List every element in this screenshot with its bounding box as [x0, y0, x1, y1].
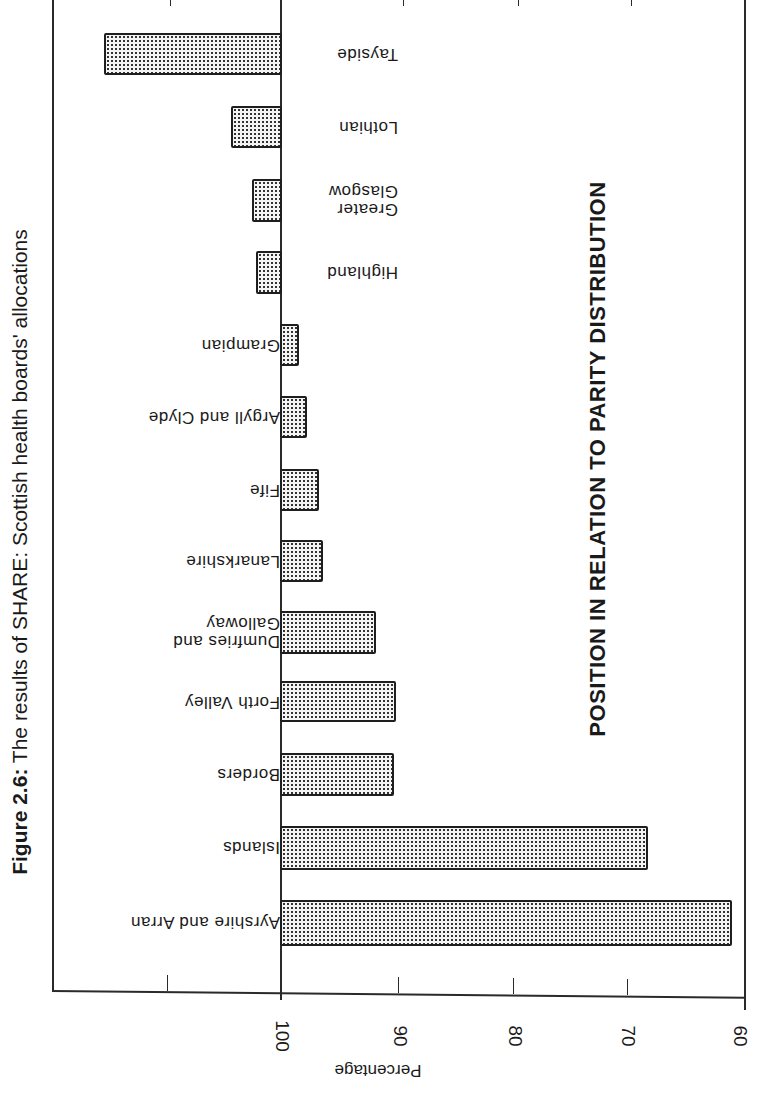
label-islands: Islands [180, 838, 280, 856]
tick-bottom-110 [167, 975, 168, 991]
bar-ayrshire-and-arran [280, 900, 732, 946]
tick-label-80: 80 [504, 1016, 526, 1056]
tick-top-70 [631, 0, 632, 6]
tick-top-90 [403, 0, 404, 6]
bar-fife [280, 469, 319, 511]
figure-caption-text: The results of SHARE: Scottish health bo… [8, 229, 31, 763]
bar-lanarkshire [280, 540, 323, 582]
tick-bottom-70 [627, 979, 628, 995]
label-ayrshire-and-arran: Ayrshire and Arran [90, 913, 280, 931]
label-lanarkshire: Lanarkshire [150, 552, 280, 570]
bar-dumfries-and-galloway [280, 611, 376, 654]
label-dumfries-and-galloway: Dumfries and Galloway [160, 614, 280, 650]
figure-caption: Figure 2.6: The results of SHARE: Scotti… [8, 1, 32, 1102]
bar-lothian [231, 106, 282, 148]
bar-tayside [104, 33, 282, 75]
bar-greater-glasgow [252, 179, 282, 222]
bar-islands [280, 826, 648, 870]
parity-annotation: POSITION IN RELATION TO PARITY DISTRIBUT… [585, 109, 611, 809]
bar-highland [256, 251, 282, 294]
label-greater-glasgow: Greater Glasgow [288, 182, 398, 218]
frame-left [52, 0, 54, 990]
tick-label-70: 70 [617, 1016, 639, 1056]
label-borders: Borders [170, 765, 280, 783]
tick-top-110 [170, 0, 171, 6]
bar-forth-valley [280, 681, 396, 722]
label-forth-valley: Forth Valley [140, 693, 280, 711]
tick-top-80 [518, 0, 519, 6]
tick-bottom-80 [513, 978, 514, 994]
label-greater-glasgow-text: Greater Glasgow [318, 182, 398, 218]
bar-argyll-and-clyde [280, 396, 307, 438]
frame-right [744, 0, 746, 1010]
label-grampian: Grampian [160, 336, 280, 354]
tick-label-100: 100 [271, 1016, 293, 1056]
tick-bottom-90 [398, 977, 399, 993]
bar-borders [280, 753, 394, 796]
axis-label: Percentage [278, 1060, 478, 1080]
tick-label-90: 90 [389, 1016, 411, 1056]
label-tayside: Tayside [288, 45, 398, 63]
label-dumfries-and-galloway-text: Dumfries and Galloway [170, 614, 280, 650]
label-highland: Highland [288, 263, 398, 281]
tick-label-60: 60 [729, 1016, 751, 1056]
label-lothian: Lothian [288, 118, 398, 136]
label-argyll-and-clyde: Argyll and Clyde [120, 408, 280, 426]
figure-number: Figure 2.6: [8, 769, 31, 875]
bar-grampian [280, 324, 299, 366]
label-fife: Fife [200, 481, 280, 499]
